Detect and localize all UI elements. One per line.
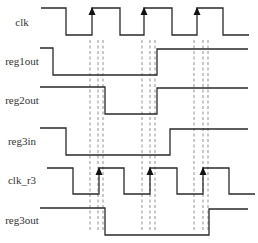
waveforms (0, 0, 258, 243)
waveform-reg2out (40, 87, 248, 114)
waveform-reg3out (40, 208, 248, 235)
dashed-guides (90, 40, 208, 232)
waveform-reg1out (40, 48, 248, 75)
waveform-reg3in (40, 128, 248, 155)
timing-diagram: clk reg1out reg2out reg3in clk_r3 reg3ou… (0, 0, 258, 243)
